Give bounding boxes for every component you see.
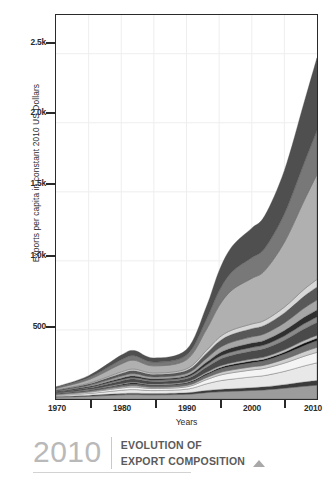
x-minor-tick-1995 [220, 400, 222, 408]
x-axis-title: Years [55, 417, 318, 427]
x-tick-label-1990: 1990 [170, 403, 204, 413]
y-tick-mark-1500 [46, 183, 55, 185]
caption-title-line1: EVOLUTION OF [121, 436, 245, 452]
chart-figure: Exports per capita in constant 2010 US D… [0, 0, 331, 432]
caption-divider [111, 437, 112, 469]
x-tick-label-1970: 1970 [40, 403, 74, 413]
x-minor-tick-1975 [90, 400, 92, 408]
y-tick-label-500: 500 [12, 321, 46, 331]
y-axis-ticks: 2.5k 2.0k 1.5k 1.0k 500 [0, 0, 46, 432]
chart-page: Exports per capita in constant 2010 US D… [0, 0, 331, 479]
y-tick-label-1500: 1.5k [12, 178, 46, 188]
y-tick-mark-500 [46, 326, 55, 328]
y-tick-label-2500: 2.5k [12, 37, 46, 47]
chart-caption: 2010 EVOLUTION OF EXPORT COMPOSITION [0, 432, 331, 479]
plot-area [55, 14, 318, 400]
y-tick-label-2000: 2.0k [12, 107, 46, 117]
y-tick-mark-2500 [46, 42, 55, 44]
caption-row: 2010 EVOLUTION OF EXPORT COMPOSITION [33, 436, 265, 469]
x-minor-tick-1985 [155, 400, 157, 408]
caption-underline [33, 472, 191, 473]
y-tick-label-1000: 1.0k [12, 250, 46, 260]
stacked-area-plot [56, 15, 317, 399]
x-tick-label-2010: 2010 [296, 403, 330, 413]
y-tick-mark-2000 [46, 112, 55, 114]
x-tick-label-1980: 1980 [105, 403, 139, 413]
x-tick-label-2000: 2000 [235, 403, 269, 413]
y-tick-mark-1000 [46, 255, 55, 257]
caption-year: 2010 [33, 436, 102, 467]
x-minor-tick-2005 [284, 400, 286, 408]
caption-title-line2: EXPORT COMPOSITION [121, 452, 245, 468]
caption-title-block: EVOLUTION OF EXPORT COMPOSITION [121, 436, 245, 468]
expand-triangle-icon[interactable] [253, 460, 265, 467]
